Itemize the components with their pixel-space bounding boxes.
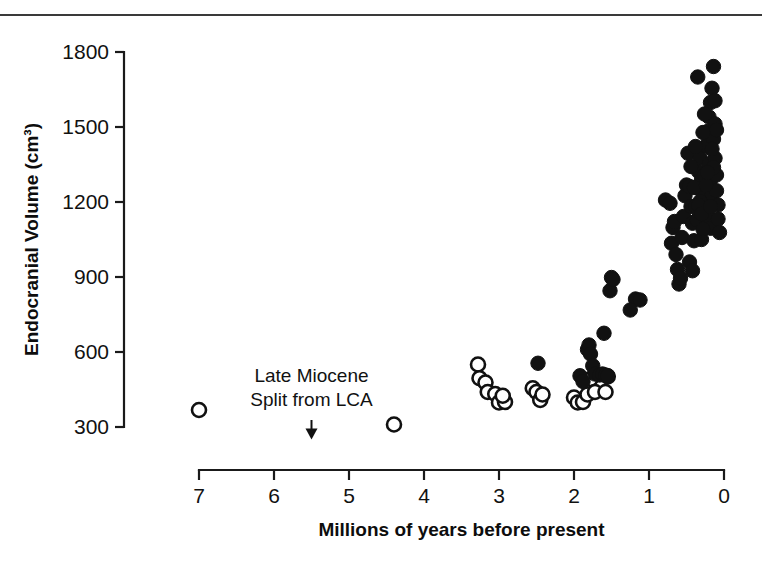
y-tick-label: 1500 — [62, 115, 109, 138]
data-point-filled — [597, 326, 611, 340]
y-tick-label: 1200 — [62, 190, 109, 213]
series-filled-circles — [531, 59, 727, 388]
data-point-filled — [531, 356, 545, 370]
data-point-filled — [706, 59, 720, 73]
data-point-open — [387, 418, 401, 432]
data-point-open — [471, 358, 485, 372]
x-tick-label: 6 — [268, 484, 280, 507]
x-tick-label: 0 — [718, 484, 730, 507]
data-point-filled — [623, 303, 637, 317]
x-tick-label: 1 — [643, 484, 655, 507]
y-tick-label: 1800 — [62, 40, 109, 63]
data-point-open — [536, 388, 550, 402]
data-point-filled — [663, 196, 677, 210]
data-point-filled — [712, 225, 726, 239]
annotation-line-2: Split from LCA — [250, 389, 373, 410]
data-point-filled — [684, 159, 698, 173]
x-tick-label: 7 — [193, 484, 205, 507]
data-point-filled — [691, 70, 705, 84]
data-point-filled — [669, 247, 683, 261]
data-point-filled — [601, 369, 615, 383]
x-tick-label: 2 — [568, 484, 580, 507]
data-point-filled — [705, 142, 719, 156]
data-point-filled — [711, 212, 725, 226]
data-point-filled — [705, 81, 719, 95]
annotation-arrow-head — [306, 429, 318, 440]
x-tick-label: 3 — [493, 484, 505, 507]
x-tick-label: 4 — [418, 484, 430, 507]
data-point-filled — [708, 94, 722, 108]
data-point-filled — [696, 125, 710, 139]
y-tick-label: 300 — [74, 415, 109, 438]
data-point-filled — [697, 107, 711, 121]
data-point-filled — [703, 199, 717, 213]
x-axis-title: Millions of years before present — [318, 519, 605, 540]
scatter-plot: 180015001200900600300Endocranial Volume … — [0, 0, 762, 572]
y-tick-label: 600 — [74, 340, 109, 363]
data-point-filled — [696, 222, 710, 236]
y-axis-title: Endocranial Volume (cm³) — [21, 123, 42, 356]
data-point-filled — [685, 264, 699, 278]
data-point-filled — [709, 123, 723, 137]
x-tick-label: 5 — [343, 484, 355, 507]
data-point-open — [599, 385, 613, 399]
chart-figure: 180015001200900600300Endocranial Volume … — [0, 0, 762, 572]
y-tick-label: 900 — [74, 265, 109, 288]
annotation-line-1: Late Miocene — [254, 365, 368, 386]
data-point-filled — [688, 139, 702, 153]
data-point-open — [192, 403, 206, 417]
data-point-filled — [700, 165, 714, 179]
data-point-open — [496, 389, 510, 403]
data-point-filled — [606, 272, 620, 286]
